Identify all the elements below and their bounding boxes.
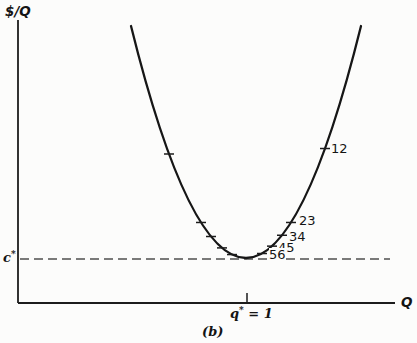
- figure-caption: (b): [202, 324, 223, 339]
- q-star-suffix: = 1: [244, 306, 273, 321]
- curve-point-label-12: 12: [331, 142, 348, 155]
- average-cost-curve: [131, 26, 361, 258]
- x-axis-label: Q: [401, 294, 412, 310]
- curve-point-label-23: 23: [299, 214, 316, 227]
- c-star-superscript: *: [11, 249, 16, 259]
- average-cost-curve-figure: $/Q Q c* q* = 1 (b) 1223344556: [0, 0, 417, 343]
- c-star-base: c: [3, 250, 11, 265]
- cost-curve-plot: [0, 0, 417, 343]
- y-axis-label: $/Q: [5, 3, 31, 19]
- q-star-base: q: [230, 306, 239, 321]
- q-star-label: q* = 1: [230, 306, 273, 321]
- c-star-label: c*: [3, 250, 16, 265]
- curve-point-label-56: 56: [269, 248, 286, 261]
